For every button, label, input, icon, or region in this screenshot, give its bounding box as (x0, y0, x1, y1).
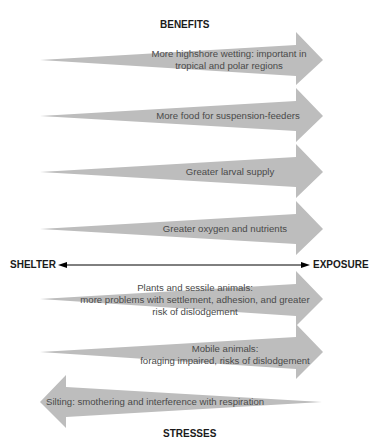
benefits-heading: BENEFITS (160, 19, 209, 30)
benefit-label-4: Greater oxygen and nutrients (155, 223, 295, 235)
axis-left-arrowhead-icon (58, 262, 67, 268)
benefit-label-2: More food for suspension-feeders (148, 110, 308, 122)
stress-label-1: Plants and sessile animals: more problem… (70, 282, 320, 318)
axis-right-arrowhead-icon (301, 262, 310, 268)
shelter-label: SHELTER (10, 259, 56, 270)
stress-label-2: Mobile animals: foraging impaired, risks… (130, 343, 320, 367)
stresses-heading: STRESSES (163, 428, 216, 438)
stress-label-3: Silting: smothering and interference wit… (46, 396, 286, 408)
exposure-label: EXPOSURE (313, 259, 369, 270)
benefit-label-3: Greater larval supply (170, 166, 290, 178)
benefit-label-1: More highshore wetting: important in tro… (143, 48, 315, 72)
